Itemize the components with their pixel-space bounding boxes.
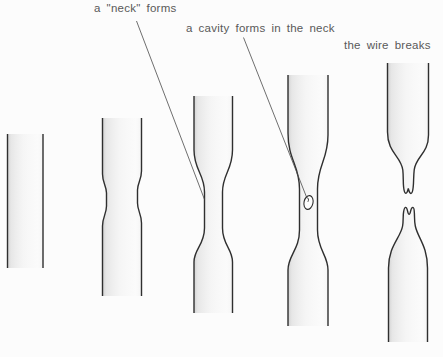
wire-stage-3-neck (194, 96, 233, 313)
label-wire-breaks: the wire breaks (344, 39, 431, 52)
wire-necking-diagram: a "neck" forms a cavity forms in the nec… (0, 0, 443, 357)
label-cavity-forms: a cavity forms in the neck (186, 22, 335, 35)
wire-stage-5-broken-top (388, 63, 429, 193)
wire-stage-5-broken-bottom (389, 207, 428, 342)
wire-stage-1-straight (8, 134, 44, 268)
wire-stages-drawing (0, 0, 443, 357)
label-neck-forms: a "neck" forms (94, 2, 177, 15)
wire-stage-2-slight-neck (103, 118, 142, 296)
wire-stage-4-cavity (288, 75, 328, 326)
